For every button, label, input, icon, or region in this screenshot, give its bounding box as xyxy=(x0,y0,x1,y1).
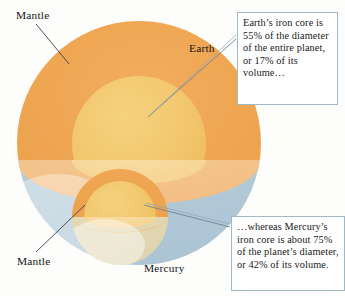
label-mantle-bottom: Mantle xyxy=(17,255,50,267)
label-earth: Earth xyxy=(189,42,215,54)
callout-earth-core: Earth’s iron core is 55% of the diameter… xyxy=(237,12,338,105)
label-mercury: Mercury xyxy=(144,262,185,274)
label-mantle-top: Mantle xyxy=(16,9,49,21)
callout-mercury-core: …whereas Mercury’s iron core is about 75… xyxy=(231,216,345,291)
planet-cutaway-figure: Mantle Earth Mantle Mercury Earth’s iron… xyxy=(0,0,345,296)
